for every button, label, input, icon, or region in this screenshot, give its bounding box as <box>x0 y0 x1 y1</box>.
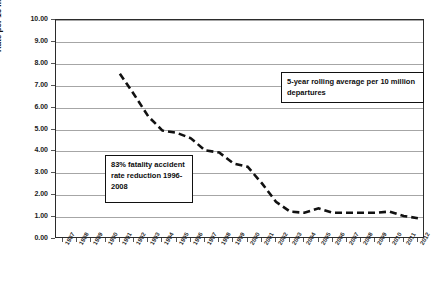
y-axis-tick-mark <box>51 238 55 239</box>
x-axis-tick-mark <box>232 238 233 242</box>
series-line-chart <box>56 20 425 239</box>
x-axis-tick-mark <box>176 238 177 242</box>
x-axis-tick-mark <box>147 238 148 242</box>
x-axis-tick-mark <box>218 238 219 242</box>
x-axis-tick-mark <box>389 238 390 242</box>
x-axis-tick-mark <box>190 238 191 242</box>
x-axis-tick-mark <box>417 238 418 242</box>
y-axis-tick-label: 3.00 <box>2 168 48 175</box>
y-axis-tick-label: 7.00 <box>2 81 48 88</box>
reduction-annotation-callout: 83% fatality accident rate reduction 199… <box>105 155 193 203</box>
plot-area <box>55 19 424 238</box>
x-axis-tick-mark <box>161 238 162 242</box>
y-axis-tick-label: 6.00 <box>2 103 48 110</box>
y-axis-title: Rate per 10 million departures <box>0 0 3 52</box>
x-axis-tick-mark <box>105 238 106 242</box>
x-axis-tick-mark <box>119 238 120 242</box>
x-axis-tick-mark <box>204 238 205 242</box>
x-axis-tick-mark <box>360 238 361 242</box>
y-axis-tick-label: 0.00 <box>2 234 48 241</box>
x-axis-tick-mark <box>332 238 333 242</box>
x-axis-tick-mark <box>374 238 375 242</box>
y-axis-tick-label: 9.00 <box>2 37 48 44</box>
x-axis-tick-mark <box>275 238 276 242</box>
x-axis-tick-mark <box>346 238 347 242</box>
x-axis-tick-mark <box>133 238 134 242</box>
legend-label: 5-year rolling average per 10 million de… <box>287 77 415 97</box>
y-axis-tick-label: 10.00 <box>2 15 48 22</box>
reduction-annotation-label: 83% fatality accident rate reduction 199… <box>111 160 185 191</box>
x-axis-tick-mark <box>318 238 319 242</box>
y-axis-tick-label: 8.00 <box>2 59 48 66</box>
x-axis-tick-mark <box>90 238 91 242</box>
x-axis-tick-mark <box>303 238 304 242</box>
y-axis-tick-label: 4.00 <box>2 146 48 153</box>
y-axis-tick-label: 1.00 <box>2 212 48 219</box>
x-axis-tick-mark <box>76 238 77 242</box>
x-axis-tick-mark <box>62 238 63 242</box>
x-axis-tick-mark <box>261 238 262 242</box>
x-axis-tick-mark <box>403 238 404 242</box>
x-axis-tick-mark <box>247 238 248 242</box>
y-axis-tick-label: 2.00 <box>2 190 48 197</box>
y-axis-tick-label: 5.00 <box>2 125 48 132</box>
chart-container: Rate per 10 million departures 10.009.00… <box>0 0 444 282</box>
legend-callout: 5-year rolling average per 10 million de… <box>281 72 424 103</box>
x-axis-tick-mark <box>289 238 290 242</box>
